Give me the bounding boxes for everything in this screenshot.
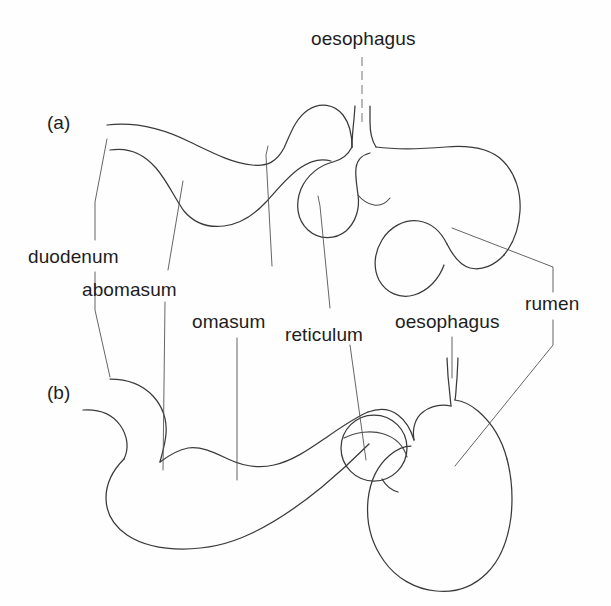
rumen-neck-right-b <box>455 400 507 459</box>
rumen-dorsal-outline-b <box>413 405 451 440</box>
label-omasum: omasum <box>192 312 265 331</box>
figure-linework <box>0 0 611 606</box>
reticulum-outline-b <box>341 415 407 481</box>
leader-duodenum-to-a <box>95 139 107 240</box>
omasum-reticulum-junction-b <box>368 410 414 440</box>
panel-tag-a: (a) <box>47 113 70 132</box>
label-oesophagus-mid: oesophagus <box>395 312 500 331</box>
panel-b-anatomy <box>83 358 512 591</box>
label-abomasum: abomasum <box>82 280 177 299</box>
abomasum-omasum-dorsal-outline-b <box>160 412 368 467</box>
reticulum-outline-a <box>298 147 370 238</box>
label-oesophagus-top: oesophagus <box>311 29 416 48</box>
oesophagus-tube-left-wall-a <box>352 106 355 147</box>
abomasum-duodenum-ventral-outline-a <box>110 149 331 226</box>
label-reticulum: reticulum <box>285 325 363 344</box>
rumen-ventral-sac-outline-a <box>375 221 447 297</box>
leader-reticulum-to-a <box>318 196 330 308</box>
label-rumen: rumen <box>525 294 579 313</box>
oesophagus-tube-left-wall-b <box>447 358 451 406</box>
leader-omasum-to-a <box>266 146 272 266</box>
rumen-body-outline-b <box>368 446 512 591</box>
rumen-dorsal-outline-a <box>376 146 520 255</box>
leader-rumen-to-a <box>452 228 553 292</box>
duodenum-ventral-outline-b <box>83 410 127 459</box>
leader-reticulum-to-b <box>350 345 366 460</box>
label-duodenum: duodenum <box>28 247 119 266</box>
oesophagus-tube-right-wall-a <box>370 106 376 147</box>
panel-tag-b: (b) <box>47 383 70 402</box>
ruminant-stomach-figure: (a) (b) oesophagus duodenum abomasum oma… <box>0 0 611 606</box>
duodenum-dorsal-outline-b <box>110 379 166 462</box>
rumen-ventral-right-lobe-a <box>447 244 504 269</box>
reticulum-rumen-connection-b <box>382 479 398 492</box>
reticulo-rumen-notch-a <box>358 195 390 205</box>
leader-rumen-to-b <box>455 320 553 466</box>
leader-abomasum-to-a <box>168 181 183 270</box>
panel-a-anatomy <box>107 105 520 296</box>
abomasum-ventral-outline-b <box>106 444 369 549</box>
reticulo-rumen-opening-b <box>344 432 407 457</box>
oesophagus-tube-right-wall-b <box>455 358 458 400</box>
